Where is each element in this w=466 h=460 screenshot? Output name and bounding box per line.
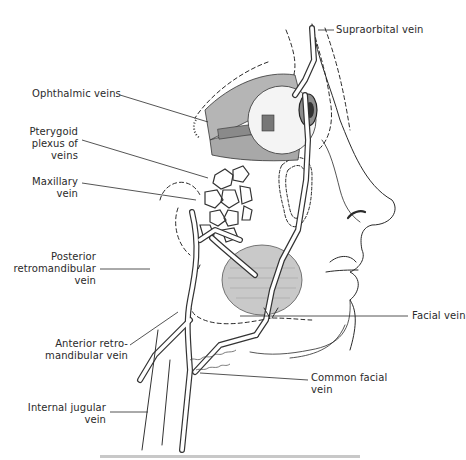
label-facial-vein: Facial vein <box>412 310 466 322</box>
label-common-facial-vein: Common facial vein <box>311 372 387 396</box>
label-maxillary-vein: Maxillary vein <box>20 176 78 200</box>
label-supraorbital-vein: Supraorbital vein <box>336 24 424 36</box>
lips <box>326 256 358 272</box>
label-ophthalmic-veins: Ophthalmic veins <box>32 88 121 100</box>
label-posterior-retromandibular-vein: Posterior retromandibular vein <box>10 251 96 287</box>
leader-maxillary <box>82 183 196 200</box>
face-profile-outline <box>312 25 395 350</box>
leader-common-facial <box>200 373 308 380</box>
leader-ophthalmic <box>120 95 208 122</box>
label-pterygoid-plexus: Pterygoid plexus of veins <box>20 126 78 162</box>
caption-fragment <box>100 455 360 458</box>
pterygoid-plexus <box>200 166 252 242</box>
leader-pterygoid <box>82 140 208 178</box>
label-anterior-retromandibular-vein: Anterior retro- mandibular vein <box>40 338 128 362</box>
label-internal-jugular-vein: Internal jugular vein <box>20 402 106 426</box>
